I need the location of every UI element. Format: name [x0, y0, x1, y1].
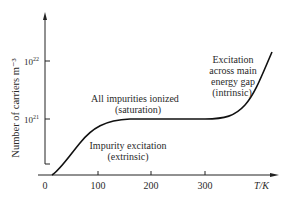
x-tick-label-200: 200 — [144, 180, 159, 191]
annotation-intrinsic-line3: energy gap — [211, 76, 255, 87]
annotation-saturation-line1: All impurities ionized — [91, 93, 179, 104]
x-axis-arrow-icon — [270, 173, 279, 177]
y-tick-label-21: 1021 — [24, 114, 39, 125]
x-tick-label-100: 100 — [91, 180, 106, 191]
annotation-intrinsic-line4: (intrinsic) — [212, 87, 251, 99]
chart: 0 100 200 300 T/K 1022 1021 Number of ca… — [0, 0, 295, 199]
x-tick-label-300: 300 — [198, 180, 213, 191]
y-tick-label-22: 1022 — [24, 56, 39, 67]
annotation-extrinsic-line2: (extrinsic) — [107, 151, 148, 163]
annotation-intrinsic-line2: across main — [209, 65, 257, 76]
y-axis-arrow-icon — [43, 12, 47, 20]
y-axis-label: Number of carriers m⁻³ — [10, 58, 21, 157]
x-tick-label-0: 0 — [43, 180, 48, 191]
annotation-saturation-line2: (saturation) — [115, 104, 161, 116]
annotation-intrinsic-line1: Excitation — [212, 54, 253, 65]
x-axis-label: T/K — [254, 180, 270, 191]
annotation-extrinsic-line1: Impurity excitation — [90, 140, 167, 151]
